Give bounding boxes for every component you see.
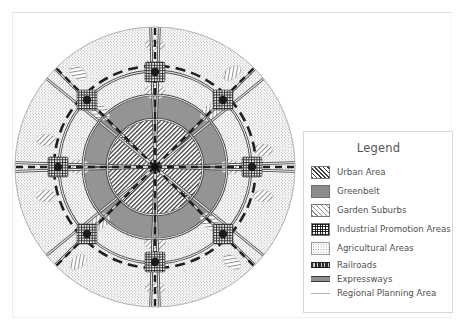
legend-item-industrial-promotion-areas: Industrial Promotion Areas xyxy=(311,220,446,239)
city-center-hub xyxy=(151,163,158,170)
urban-hatch-swatch xyxy=(311,166,330,179)
legend-item-railroads: Railroads xyxy=(311,258,446,272)
legend-title: Legend xyxy=(311,141,446,155)
region-boundary-swatch xyxy=(311,287,330,300)
garden-hatch-swatch xyxy=(311,204,330,217)
legend-label: Urban Area xyxy=(337,168,386,177)
greenbelt-solid-swatch xyxy=(311,185,330,198)
agricultural-dot-swatch xyxy=(311,242,330,255)
legend-item-agricultural-areas: Agricultural Areas xyxy=(311,239,446,258)
legend-item-expressways: Expressways xyxy=(311,272,446,286)
legend-label: Greenbelt xyxy=(337,187,380,196)
legend-label: Railroads xyxy=(337,261,377,270)
map-svg xyxy=(0,0,300,333)
regional-plan-map xyxy=(0,0,300,333)
figure-canvas: Legend Urban Area Greenbelt Garden Subur… xyxy=(0,0,469,333)
legend-label: Agricultural Areas xyxy=(337,244,414,253)
expressway-line-swatch xyxy=(311,273,330,286)
legend-label: Regional Planning Area xyxy=(337,289,436,298)
legend-item-regional-planning-area: Regional Planning Area xyxy=(311,286,446,300)
legend-label: Expressways xyxy=(337,275,392,284)
railroad-line-swatch xyxy=(311,259,330,272)
legend-item-greenbelt: Greenbelt xyxy=(311,182,446,201)
legend-item-urban-area: Urban Area xyxy=(311,163,446,182)
legend-box: Legend Urban Area Greenbelt Garden Subur… xyxy=(303,131,453,313)
industrial-grid-swatch xyxy=(311,223,330,236)
legend-label: Industrial Promotion Areas xyxy=(337,225,451,234)
legend-item-garden-suburbs: Garden Suburbs xyxy=(311,201,446,220)
legend-label: Garden Suburbs xyxy=(337,206,407,215)
